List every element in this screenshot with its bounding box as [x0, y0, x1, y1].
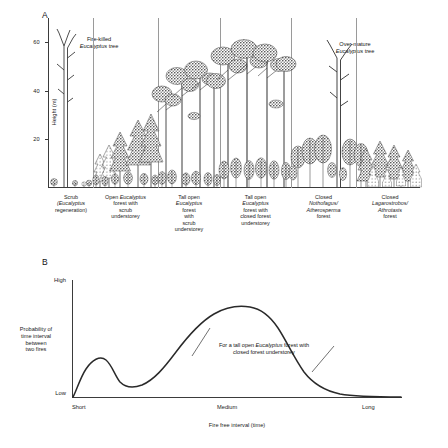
zone-label-tos-l1: Tall open	[178, 194, 200, 200]
panel-b-annotation-l2: closed forest understorey	[233, 349, 295, 355]
panel-b-ylabel-l1: Probability of	[20, 326, 52, 332]
zone-label-noth-l4: forest	[317, 213, 330, 219]
zone-label-closed-lagarostrobos: Closed Lagarostrobos/ Athrotaxis forest	[354, 194, 426, 220]
panel-b-xtick-long: Long	[362, 404, 375, 410]
panel-b-letter: B	[42, 257, 48, 267]
panel-b-plot-area: High Low Probability of time interval be…	[72, 280, 402, 398]
zone-label-toc-l1: Tall open	[245, 194, 267, 200]
panel-a-yticklabel-40: 40	[33, 88, 39, 94]
panel-b-ylabel-l3: between	[25, 340, 46, 346]
zone-label-toc-l5: understorey	[241, 220, 269, 226]
panel-a-plot-area: 20 40 60 Height (m)	[48, 18, 420, 188]
zone-label-open-genus: Eucalyptus	[120, 194, 146, 200]
zone-label-tos-l3: forest	[182, 207, 195, 213]
zone-label-noth-l3: Atherosperma	[307, 207, 341, 213]
panel-a-yticklabel-60: 60	[33, 39, 39, 45]
zone-label-toc-l3: forest with	[243, 207, 268, 213]
zone-label-scrub-l1: Scrub	[64, 194, 78, 200]
zone-label-closed-nothofagus: Closed Nothofagus/ Atherosperma forest	[291, 194, 356, 220]
zone-label-tos-l6: understorey	[175, 226, 203, 232]
fire-interval-probability-curve	[72, 280, 402, 398]
zone-label-lag-l4: forest	[383, 213, 396, 219]
zone-label-lag-l3: Athrotaxis	[378, 207, 402, 213]
panel-a: A Fire-killed Eucalyptus tree Over-matur…	[0, 0, 448, 248]
zone-label-tos-l2: Eucalyptus	[176, 200, 202, 206]
panel-b-y-axis-label: Probability of time interval between two…	[5, 326, 67, 353]
zone-label-noth-l1: Closed	[315, 194, 332, 200]
zone-label-toc-l2: Eucalyptus	[242, 200, 268, 206]
panel-b-y-low-label: Low	[55, 390, 66, 396]
zone-label-scrub-l3: regeneration)	[55, 207, 87, 213]
zone-label-lag-l2: Lagarostrobos/	[372, 200, 408, 206]
zone-label-tos-l5: scrub	[182, 220, 195, 226]
zone-label-toc-l4: closed forest	[240, 213, 271, 219]
panel-b-y-high-label: High	[54, 277, 66, 283]
zone-label-tos-l4: with	[184, 213, 194, 219]
panel-b-annotation: For a tall open Eucalyptus forest with c…	[194, 342, 334, 356]
vegetation-profile-illustration	[48, 18, 420, 188]
zone-label-tall-open-scrub: Tall open Eucalyptus forest with scrub u…	[158, 194, 220, 232]
panel-b-ylabel-l2: time interval	[21, 333, 51, 339]
zone-label-open-l2: forest with	[113, 200, 138, 206]
panel-b-xtick-short: Short	[72, 404, 86, 410]
zone-label-scrub-l2: (Eucalyptus	[57, 200, 85, 206]
panel-b-ylabel-l4: two fires	[26, 346, 47, 352]
zone-label-open-l3: scrub	[119, 207, 132, 213]
zone-label-open-l4: understorey	[111, 213, 139, 219]
zone-label-tall-open-closed: Tall open Eucalyptus forest with closed …	[220, 194, 291, 226]
figure-root: A Fire-killed Eucalyptus tree Over-matur…	[0, 0, 448, 448]
panel-b-annotation-genus: Eucalyptus	[256, 342, 283, 348]
panel-a-letter: A	[42, 10, 48, 20]
zone-label-noth-l2: Nothofagus/	[309, 200, 338, 206]
panel-a-yticklabel-20: 20	[33, 136, 39, 142]
zone-label-open-eucalyptus: Open Eucalyptus forest with scrub unders…	[93, 194, 158, 220]
panel-b: B High Low Probability of time interval …	[0, 248, 448, 448]
panel-b-x-axis-label: Fire free interval (time)	[72, 422, 402, 428]
zone-label-lag-l1: Closed	[382, 194, 399, 200]
panel-b-xtick-medium: Medium	[217, 404, 237, 410]
